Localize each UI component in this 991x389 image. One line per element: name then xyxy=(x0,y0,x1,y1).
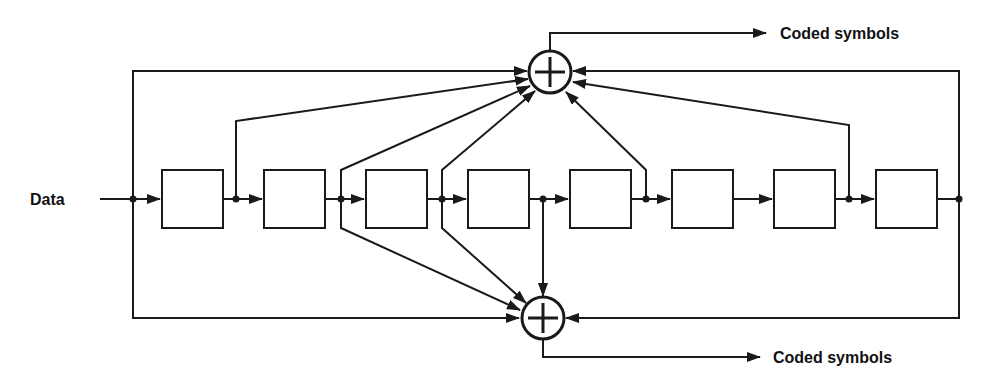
bottom-output: Coded symbols xyxy=(543,339,892,366)
register-stage-1 xyxy=(162,170,223,228)
register-stage-5 xyxy=(570,170,631,228)
register-stage-8 xyxy=(876,170,937,228)
input-label-data: Data xyxy=(30,191,65,208)
register-stage-6 xyxy=(672,170,733,228)
output-label-top: Coded symbols xyxy=(780,25,899,42)
convolutional-encoder-diagram: Data xyxy=(0,0,991,389)
bottom-xor-adder xyxy=(522,297,564,339)
register-stage-2 xyxy=(264,170,325,228)
register-stage-4 xyxy=(468,170,529,228)
top-output: Coded symbols xyxy=(550,25,899,51)
output-label-bottom: Coded symbols xyxy=(773,349,892,366)
register-stage-3 xyxy=(366,170,427,228)
top-xor-adder xyxy=(529,51,571,93)
register-stage-7 xyxy=(774,170,835,228)
